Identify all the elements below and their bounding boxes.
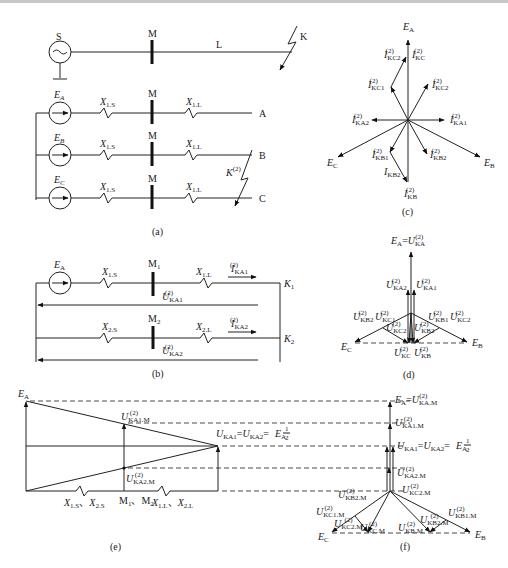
svg-text:UKB2.M(2): UKB2.M(2)	[338, 487, 367, 502]
svg-text:A: A	[259, 108, 267, 119]
svg-text:UKC.M(2): UKC.M(2)	[360, 520, 386, 535]
svg-text:IKB(2): IKB(2)	[403, 186, 417, 201]
single-line-diagram: S M L K	[49, 26, 308, 79]
label-m: M	[148, 28, 157, 39]
svg-text:EB: EB	[53, 132, 65, 145]
svg-text:IKB2(2): IKB2(2)	[429, 147, 447, 162]
svg-text:M: M	[148, 173, 157, 184]
phasor-ikc2b	[408, 84, 428, 120]
svg-text:UKB2(2): UKB2(2)	[414, 320, 435, 335]
label-k: K	[300, 31, 308, 42]
svg-text:UKA1.M(2): UKA1.M(2)	[121, 409, 151, 424]
svg-text:IKA2(2): IKA2(2)	[230, 316, 248, 331]
svg-text:UKC2(2): UKC2(2)	[450, 309, 471, 324]
svg-text:UKA1.M(2): UKA1.M(2)	[395, 415, 425, 430]
svg-text:IKC2(2): IKC2(2)	[383, 47, 401, 62]
svg-text:X1.L: X1.L	[185, 96, 202, 109]
phasor-ikc1	[391, 87, 408, 120]
caption-f: (f)	[400, 541, 410, 553]
svg-text:UKA1=UKA2=EA: UKA1=UKA2=EA	[216, 428, 286, 441]
svg-text:1: 1	[466, 437, 470, 445]
svg-text:UKC2.M(2): UKC2.M(2)	[334, 516, 363, 531]
svg-text:UKA1=UKA2=EA: UKA1=UKA2=EA	[397, 440, 467, 453]
svg-text:UKB(2): UKB(2)	[414, 345, 431, 360]
figure: S M L K EA X1.S M X1.L A	[0, 0, 508, 568]
svg-text:1: 1	[285, 425, 289, 433]
svg-text:EA=UKA.M(2): EA=UKA.M(2)	[394, 392, 438, 407]
svg-text:UKA2.M(2): UKA2.M(2)	[126, 471, 156, 486]
svg-text:K2: K2	[283, 333, 295, 346]
phase-c: EC X1.S M X1.L C	[36, 173, 266, 209]
svg-text:UKC1.M(2): UKC1.M(2)	[316, 504, 345, 519]
svg-text:M1: M1	[148, 258, 161, 271]
svg-text:X1.S: X1.S	[99, 138, 115, 151]
svg-text:X1.L: X1.L	[195, 266, 212, 279]
svg-text:IKC1(2): IKC1(2)	[367, 77, 385, 92]
svg-text:EA: EA	[53, 89, 65, 102]
svg-text:2: 2	[466, 446, 470, 454]
svg-text:M: M	[148, 88, 157, 99]
panel-d: EA=UKA(2) UKA2(2) UKA1(2) UKB2(2) UKC1(2…	[340, 233, 483, 381]
svg-text:UKA2(2): UKA2(2)	[162, 343, 183, 358]
svg-text:UKB2(2): UKB2(2)	[353, 309, 374, 324]
svg-text:X1.L: X1.L	[185, 181, 202, 194]
svg-text:IKA1(2): IKA1(2)	[230, 261, 248, 276]
svg-text:UKB2.M(2): UKB2.M(2)	[420, 512, 449, 527]
caption-a: (a)	[152, 226, 163, 238]
panel-a: S M L K EA X1.S M X1.L A	[36, 26, 308, 238]
phase-a: EA X1.S M X1.L A	[36, 88, 267, 124]
svg-text:EA=UKA(2): EA=UKA(2)	[390, 233, 425, 248]
svg-text:EA: EA	[402, 21, 414, 34]
svg-text:UKA2(2): UKA2(2)	[386, 277, 407, 292]
svg-text:IKC2(2): IKC2(2)	[431, 77, 449, 92]
panel-f: EA=UKA.M(2) UKA1.M(2) UKA1=UKA2=EA 1 2 U…	[316, 392, 486, 553]
svg-text:UKA1(2): UKA1(2)	[162, 289, 183, 304]
svg-text:K(2): K(2)	[225, 165, 242, 178]
svg-text:C: C	[259, 193, 266, 204]
svg-text:X1.S: X1.S	[99, 96, 115, 109]
svg-text:EB: EB	[471, 337, 483, 350]
label-s: S	[56, 31, 62, 42]
panel-c: EA EB EC IKC2(2) IKC(2) IKC1(2) IKC2(2) …	[326, 21, 495, 218]
svg-text:UKC(2): UKC(2)	[394, 345, 411, 360]
svg-text:EC: EC	[317, 531, 329, 544]
svg-text:EC: EC	[326, 157, 338, 170]
ac-symbol-icon	[53, 50, 67, 54]
svg-text:IKC(2): IKC(2)	[411, 47, 425, 62]
svg-text:UKB1(2): UKB1(2)	[428, 309, 449, 324]
svg-text:M1、M2: M1、M2	[119, 495, 154, 508]
caption-b: (b)	[152, 368, 164, 380]
caption-c: (c)	[402, 206, 413, 218]
svg-text:EA: EA	[17, 388, 29, 401]
svg-text:EB: EB	[474, 529, 486, 542]
svg-text:K1: K1	[283, 278, 295, 291]
caption-d: (d)	[403, 369, 415, 381]
svg-text:X1.S: X1.S	[99, 181, 115, 194]
svg-text:IKB2: IKB2	[383, 166, 401, 179]
svg-text:UKA2.M(2): UKA2.M(2)	[397, 465, 427, 480]
svg-text:UKB1.M(2): UKB1.M(2)	[448, 505, 477, 520]
svg-text:EC: EC	[53, 174, 65, 187]
svg-text:EC: EC	[340, 341, 352, 354]
label-l: L	[216, 39, 222, 50]
panel-b: EA X1.S M1 X1.L IKA1(2) UKA1(2) K1 X2.S …	[36, 258, 295, 380]
svg-text:EA: EA	[53, 259, 65, 272]
svg-text:X1.S、X2.S: X1.S、X2.S	[63, 497, 105, 510]
svg-text:EB: EB	[483, 157, 495, 170]
svg-text:IKB1(2): IKB1(2)	[371, 147, 389, 162]
svg-text:UKA1(2): UKA1(2)	[416, 277, 437, 292]
svg-text:X2.S: X2.S	[101, 321, 117, 334]
svg-text:M2: M2	[148, 313, 161, 326]
svg-text:UKC2(2): UKC2(2)	[386, 320, 407, 335]
svg-text:X1.S: X1.S	[101, 266, 117, 279]
svg-text:UKC2.M(2): UKC2.M(2)	[402, 482, 431, 497]
fault-k-icon	[280, 26, 297, 70]
svg-text:X1.L: X1.L	[185, 138, 202, 151]
svg-text:X2.L: X2.L	[195, 321, 212, 334]
svg-text:B: B	[259, 150, 266, 161]
phase-b: EB X1.S M X1.L B	[36, 130, 266, 166]
svg-text:IKA1(2): IKA1(2)	[449, 112, 467, 127]
svg-text:2: 2	[285, 434, 289, 442]
svg-text:IKA2(2): IKA2(2)	[351, 112, 369, 127]
three-phase-diagram: EA X1.S M X1.L A EB X1.S M X1.L B	[36, 88, 267, 209]
